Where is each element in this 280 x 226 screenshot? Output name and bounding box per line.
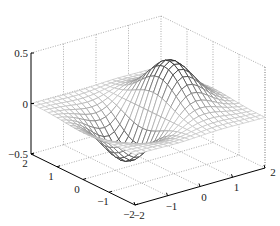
- right-axis-tick-label: 1: [234, 181, 240, 193]
- left-tick: [83, 179, 86, 180]
- left-axis-tick-label: 2: [22, 157, 28, 169]
- surface-plot: 0.50−0.5210−1−2−2−1012: [0, 0, 280, 226]
- left-tick: [57, 166, 60, 167]
- right-axis-tick-label: −1: [166, 200, 178, 212]
- left-axis-tick-label: 1: [48, 170, 54, 182]
- left-tick: [135, 204, 138, 205]
- left-axis-tick-label: −1: [97, 195, 109, 207]
- left-axis-tick-label: 0: [74, 183, 80, 195]
- right-axis-tick-label: 0: [201, 191, 207, 203]
- z-tick-label: 0: [23, 98, 29, 110]
- z-tick-label: 0.5: [14, 47, 28, 59]
- right-axis-tick-label: −2: [133, 209, 145, 221]
- right-axis-tick-label: 2: [270, 166, 276, 178]
- left-tick: [109, 191, 112, 192]
